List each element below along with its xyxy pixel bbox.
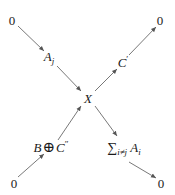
arrow-cprime-to-0 xyxy=(129,27,156,55)
sigma-icon: ∑ xyxy=(107,140,117,155)
commutative-diagram: 0 0 0 0 X Aj C′ B⊕C″ ∑i≠j Ai xyxy=(0,0,175,195)
oplus-icon: ⊕ xyxy=(42,139,55,155)
sum-a-base: A xyxy=(130,140,138,155)
a-j-subscript: j xyxy=(52,56,55,66)
c-double-prime-mark: ″ xyxy=(65,139,69,149)
arrow-aj-to-x xyxy=(57,66,81,91)
a-j-base: A xyxy=(44,49,52,64)
node-b-oplus-c-double-prime: B⊕C″ xyxy=(34,140,69,155)
c-prime-base: C xyxy=(118,55,127,70)
node-sum-a-i: ∑i≠j Ai xyxy=(107,141,141,157)
node-c-prime: C′ xyxy=(118,55,129,69)
arrow-0-to-bc xyxy=(18,154,44,177)
sum-a-subscript: i xyxy=(138,147,141,157)
node-a-j: Aj xyxy=(44,50,54,66)
node-zero-bottom-right: 0 xyxy=(158,177,165,190)
arrow-bc-to-x xyxy=(58,106,81,140)
node-x-center: X xyxy=(84,92,92,105)
node-zero-top-left: 0 xyxy=(9,14,16,27)
c-prime-mark: ′ xyxy=(126,54,128,64)
arrow-x-to-cprime xyxy=(95,69,117,91)
arrow-sum-to-0 xyxy=(129,162,156,178)
b-term: B xyxy=(34,140,42,155)
arrow-0-to-aj xyxy=(18,26,44,51)
node-zero-top-right: 0 xyxy=(157,14,164,27)
arrow-x-to-sum xyxy=(95,106,117,136)
node-zero-bottom-left: 0 xyxy=(11,177,18,190)
sum-subscript: i≠j xyxy=(117,147,127,157)
c-double-prime-base: C xyxy=(56,140,65,155)
